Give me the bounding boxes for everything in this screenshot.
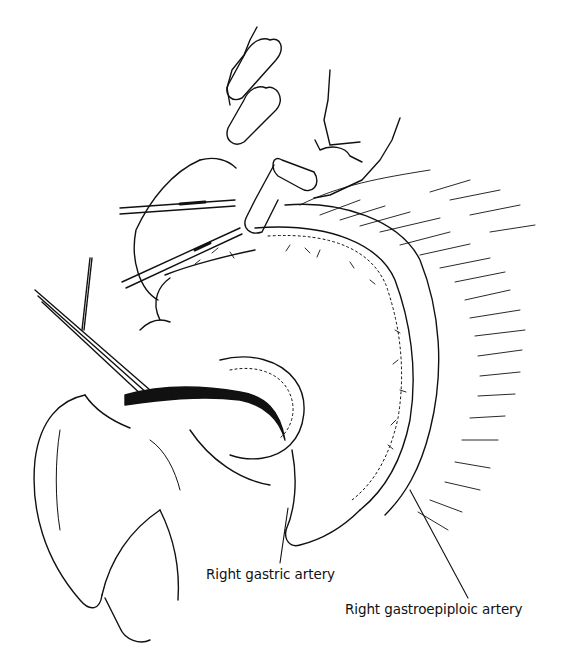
greater-curvature [255, 204, 439, 515]
retracting-hand [134, 27, 400, 300]
label-right-gastroepiploic-artery: Right gastroepiploic artery [345, 601, 522, 617]
dark-tissue-band [125, 387, 285, 440]
surgical-illustration [0, 0, 578, 650]
left-organ [34, 395, 180, 642]
vessel-branches [195, 245, 406, 449]
figure-canvas: Right gastric artery Right gastroepiploi… [0, 0, 578, 650]
omentum-texture [300, 170, 535, 530]
forceps-upper [120, 200, 235, 214]
forceps-left [35, 258, 150, 398]
label-right-gastric-artery: Right gastric artery [206, 566, 335, 582]
pylorus-region [190, 357, 304, 485]
leader-line-right-gastric-artery [280, 508, 288, 563]
leader-line-right-gastroepiploic-artery [410, 490, 468, 598]
